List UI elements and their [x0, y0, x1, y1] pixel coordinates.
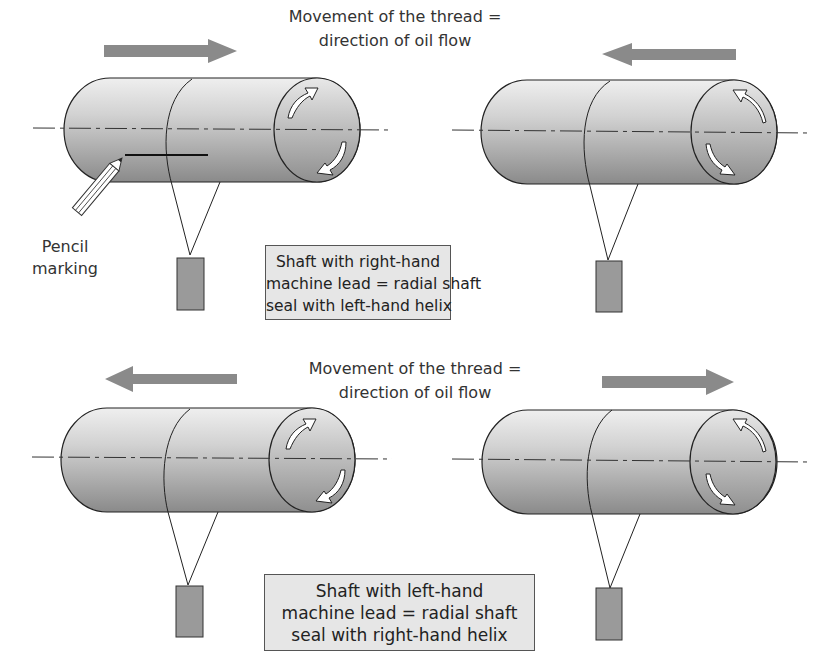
bottom-box-line2: machine lead = radial shaft: [265, 602, 534, 624]
hanging-weight: [177, 258, 204, 310]
pencil-label-line2: marking: [20, 258, 110, 280]
string-line: [188, 512, 218, 585]
shaft-lead-diagram: [0, 0, 834, 670]
top-caption-line1: Movement of the thread =: [255, 5, 535, 29]
shaft-end-face: [274, 78, 360, 182]
top-box-line1: Shaft with right-hand: [266, 251, 450, 273]
flow-arrow-left-icon: [602, 43, 736, 66]
hanging-weight: [176, 586, 203, 637]
flow-arrow-right-icon: [104, 39, 237, 63]
bottom-box-line3: seal with right-hand helix: [265, 624, 534, 646]
bottom-caption-line1: Movement of the thread =: [275, 357, 555, 381]
shaft-end-face: [690, 410, 776, 514]
hanging-weight: [596, 261, 622, 312]
top-box-line2: machine lead = radial shaft: [266, 273, 450, 295]
bottom-caption-line2: direction of oil flow: [275, 381, 555, 405]
top-info-box: Shaft with right-hand machine lead = rad…: [265, 245, 451, 320]
string-line: [610, 514, 640, 588]
string-line: [608, 184, 638, 260]
bottom-info-box: Shaft with left-hand machine lead = radi…: [264, 574, 535, 651]
bottom-box-line1: Shaft with left-hand: [265, 580, 534, 602]
flow-arrow-left-icon: [105, 366, 237, 392]
string-line: [190, 182, 220, 255]
top-box-line3: seal with left-hand helix: [266, 295, 450, 317]
top-caption: Movement of the thread = direction of oi…: [255, 5, 535, 53]
pencil-marking-label: Pencil marking: [20, 236, 110, 280]
flow-arrow-right-icon: [602, 369, 734, 395]
pencil-label-line1: Pencil: [20, 236, 110, 258]
top-caption-line2: direction of oil flow: [255, 29, 535, 53]
bottom-caption: Movement of the thread = direction of oi…: [275, 357, 555, 405]
top-right-shaft-assembly: [452, 43, 810, 312]
hanging-weight: [596, 588, 622, 640]
